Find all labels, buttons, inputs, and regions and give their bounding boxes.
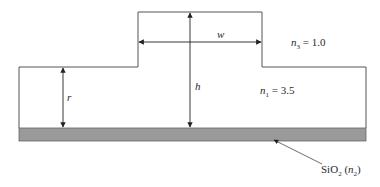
height-label: h [195, 80, 201, 92]
width-label: w [217, 28, 225, 40]
substrate-pointer-arrow [274, 140, 322, 164]
substrate-layer [19, 128, 366, 141]
slab-height-label: r [67, 91, 72, 103]
core-index-label: n1 = 3.5 [260, 84, 295, 99]
substrate-label: SiO2 (n2) [321, 163, 361, 178]
cladding-index-label: n3 = 1.0 [291, 36, 326, 51]
rib-outline [19, 12, 366, 128]
rib-waveguide-diagram: w h r n3 = 1.0 n1 = 3.5 SiO2 (n2) [0, 0, 380, 187]
